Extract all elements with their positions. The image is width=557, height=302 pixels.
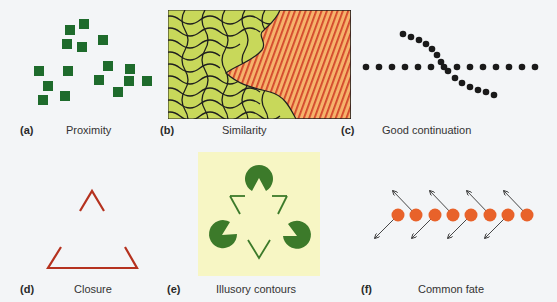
panel-e-letter: (e) (167, 283, 180, 295)
panel-c-caption: Good continuation (382, 124, 471, 136)
proximity-squares (34, 19, 152, 105)
panel-b-letter: (b) (160, 124, 174, 136)
panel-f-caption: Common fate (418, 283, 484, 295)
panel-e-caption: Illusory contours (216, 283, 296, 295)
kanizsa-panel (198, 152, 320, 276)
panel-b-caption: Similarity (222, 124, 267, 136)
panel-f-letter: (f) (361, 283, 372, 295)
closure-triangle (48, 191, 137, 268)
panel-a-letter: (a) (20, 124, 33, 136)
panel-c-letter: (c) (341, 124, 354, 136)
common-fate-dots (375, 191, 534, 238)
panel-d-caption: Closure (74, 283, 112, 295)
similarity-panel (160, 10, 351, 130)
continuation-dots (363, 31, 539, 99)
gestalt-figure (0, 0, 557, 302)
panel-a-caption: Proximity (66, 124, 111, 136)
panel-d-letter: (d) (20, 283, 34, 295)
